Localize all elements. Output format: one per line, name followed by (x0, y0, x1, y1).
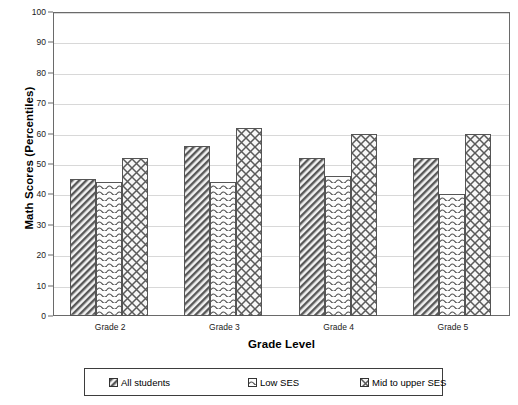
bar (96, 182, 122, 316)
bar (465, 134, 491, 316)
bar (122, 158, 148, 316)
bar (236, 128, 262, 316)
bar (184, 146, 210, 316)
y-tick-label: 30 (16, 220, 46, 230)
legend-entry[interactable]: Mid to upper SES (360, 377, 446, 388)
x-tick-label: Grade 2 (62, 322, 158, 332)
legend-swatch-icon (248, 378, 257, 387)
y-tick-label: 50 (16, 159, 46, 169)
bar (439, 194, 465, 316)
bar (299, 158, 325, 316)
y-tick-label: 20 (16, 250, 46, 260)
y-tick-label: 70 (16, 98, 46, 108)
y-tick-label: 10 (16, 281, 46, 291)
bar (70, 179, 96, 316)
chart-legend: All studentsLow SESMid to upper SES (84, 368, 443, 396)
x-tick-label: Grade 3 (176, 322, 272, 332)
bar-chart: Math Scores (Percentiles) 10090807060504… (0, 0, 518, 405)
legend-swatch-icon (109, 378, 118, 387)
bar (351, 134, 377, 316)
x-axis-title: Grade Level (53, 338, 510, 350)
x-tick-label: Grade 4 (291, 322, 387, 332)
legend-label: All students (121, 377, 170, 388)
y-tick-label: 100 (16, 7, 46, 17)
legend-entry[interactable]: Low SES (248, 377, 299, 388)
bar (413, 158, 439, 316)
bars-layer (53, 12, 510, 316)
y-tick-label: 40 (16, 189, 46, 199)
legend-swatch-icon (360, 378, 369, 387)
legend-entry[interactable]: All students (109, 377, 170, 388)
y-tick-label: 0 (16, 311, 46, 321)
bar (325, 176, 351, 316)
y-tick-label: 60 (16, 129, 46, 139)
legend-label: Low SES (260, 377, 299, 388)
y-tick-label: 90 (16, 37, 46, 47)
legend-label: Mid to upper SES (372, 377, 446, 388)
x-tick-label: Grade 5 (405, 322, 501, 332)
bar (210, 182, 236, 316)
y-tick-label: 80 (16, 68, 46, 78)
